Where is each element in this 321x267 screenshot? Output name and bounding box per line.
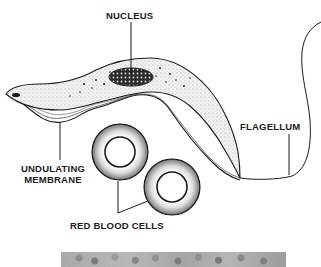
undulating-membrane-label: UNDULATING MEMBRANE [14, 163, 92, 185]
undulating-membrane-label-line1: UNDULATING [14, 163, 92, 174]
flagellum-label: FLAGELLUM [240, 121, 300, 132]
flagellum [240, 22, 321, 179]
kinetoplast [12, 93, 20, 97]
red-blood-cell-2 [144, 159, 200, 215]
red-blood-cell-1 [92, 124, 148, 180]
photomicrograph-strip [61, 252, 286, 267]
nucleus-label: NUCLEUS [106, 10, 153, 21]
undulating-membrane-label-line2: MEMBRANE [14, 174, 92, 185]
red-blood-cells-label: RED BLOOD CELLS [70, 220, 164, 231]
